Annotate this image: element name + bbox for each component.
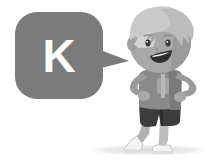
left-eye-highlight <box>146 41 148 43</box>
right-shoe-sole <box>152 151 173 154</box>
illustration-svg: K <box>0 0 219 166</box>
right-eye-highlight <box>166 41 168 43</box>
speech-bubble-letter: K <box>42 30 75 82</box>
ground-shadow <box>82 144 214 156</box>
left-hand <box>138 91 150 101</box>
shirt-graphic-stripe <box>161 74 165 98</box>
right-shoe <box>152 145 173 152</box>
left-eye <box>145 40 150 47</box>
right-eye <box>165 40 170 47</box>
illustration-canvas: K <box>0 0 219 166</box>
right-hand <box>174 92 186 102</box>
